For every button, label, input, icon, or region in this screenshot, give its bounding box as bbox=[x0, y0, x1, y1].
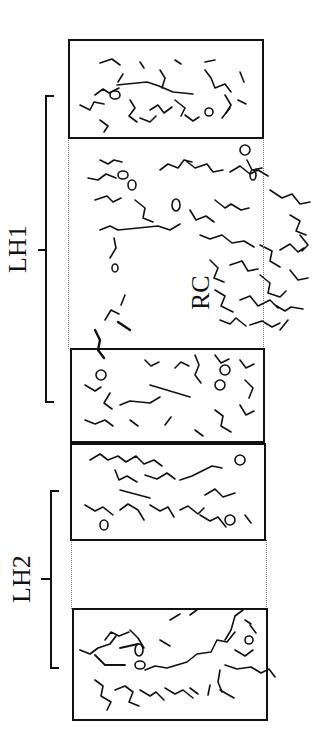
lh1-top-panel bbox=[68, 39, 264, 139]
rc-label: RC bbox=[186, 280, 216, 310]
lh2-gap-outline bbox=[71, 540, 267, 609]
lh1-bracket-tick bbox=[38, 249, 46, 251]
lh1-label: LH1 bbox=[3, 229, 33, 273]
lh1-bracket bbox=[45, 95, 54, 403]
lh2-top-panel bbox=[70, 443, 266, 541]
lh1-bottom-panel bbox=[70, 348, 265, 444]
lh2-bracket-tick bbox=[41, 578, 51, 580]
rc-region-outline bbox=[68, 138, 264, 349]
lh2-bottom-panel bbox=[72, 608, 268, 721]
lh2-label: LH2 bbox=[7, 559, 37, 603]
lh2-bracket bbox=[50, 490, 59, 669]
